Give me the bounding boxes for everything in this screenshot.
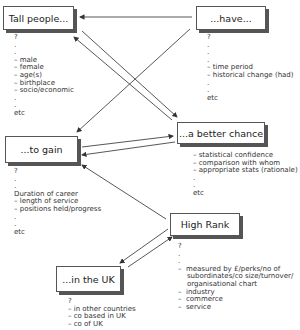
node-label: ...in the UK [62, 274, 115, 285]
notes-better-chance: – statistical confidence – comparison wi… [193, 152, 298, 198]
node-label: High Rank [181, 219, 230, 230]
node-label: ...to gain [20, 144, 62, 155]
notes-to-gain: ? . . Duration of career – length of ser… [14, 168, 101, 236]
notes-in-uk: ? – in other countries – co based in UK … [68, 298, 136, 328]
node-label: ...have... [210, 13, 251, 24]
node-high-rank: High Rank [170, 213, 240, 236]
arrow-better-chance-to-tall-people [74, 37, 172, 120]
node-tall-people: Tall people... [3, 6, 74, 30]
notes-high-rank: ? . . – measured by £/perks/no of subord… [178, 243, 293, 311]
arrow-tall-people-to-better-chance [82, 31, 177, 117]
node-in-uk: ...in the UK [56, 266, 121, 292]
arrow-in-uk-to-high-rank [128, 237, 172, 267]
notes-have: ? . . . – time period – historical chang… [207, 34, 294, 102]
node-label: ...a better chance [179, 128, 263, 139]
node-have: ...have... [196, 6, 266, 30]
arrow-better-chance-to-to-gain [82, 142, 175, 155]
arrow-high-rank-to-in-uk [120, 229, 168, 263]
arrow-have-to-to-gain [77, 29, 190, 132]
arrow-to-gain-to-better-chance [82, 136, 173, 147]
node-better-chance: ...a better chance [177, 122, 265, 144]
node-label: Tall people... [9, 13, 69, 24]
notes-tall-people: ? . . – male – female – age(s) – birthpl… [14, 34, 74, 118]
node-to-gain: ...to gain [5, 136, 78, 163]
